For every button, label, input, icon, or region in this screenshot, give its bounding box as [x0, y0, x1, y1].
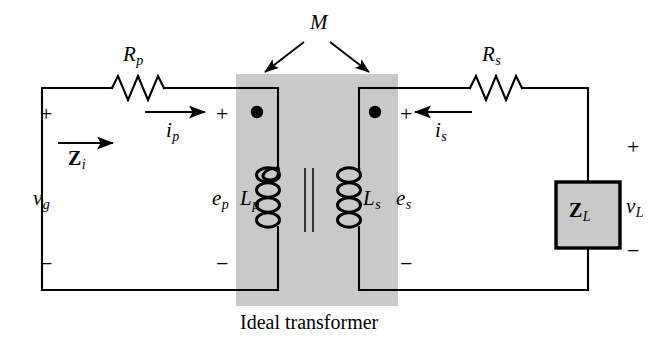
resistor-secondary-label: Rs	[482, 44, 501, 68]
secondary-minus-sign: −	[400, 253, 412, 275]
source-plus-sign: +	[40, 103, 52, 125]
circuit-figure: M Rp Rs ip is Zi vg ep Lp Ls es ZL	[0, 0, 658, 345]
secondary-plus-sign: +	[400, 103, 412, 125]
figure-caption: Ideal transformer	[240, 312, 378, 332]
resistor-zigzag-icon	[470, 76, 522, 100]
resistor-primary-label: Rp	[123, 44, 143, 68]
secondary-current-label: is	[435, 120, 447, 144]
circuit-schematic-svg	[0, 0, 658, 345]
load-minus-sign: −	[627, 240, 639, 262]
primary-minus-sign: −	[216, 253, 228, 275]
source-minus-sign: −	[40, 253, 52, 275]
primary-plus-sign: +	[216, 103, 228, 125]
primary-current-label: ip	[166, 120, 179, 144]
resistor-zigzag-icon	[112, 76, 164, 100]
inductor-primary-label: Lp	[240, 188, 259, 212]
secondary-emf-label: es	[396, 188, 411, 212]
primary-emf-label: ep	[212, 188, 229, 212]
mutual-inductance-label: M	[310, 12, 328, 33]
arrow-icon-mutual-left	[265, 42, 304, 72]
inductor-secondary-label: Ls	[363, 188, 381, 212]
load-impedance-label: ZL	[569, 200, 591, 224]
load-plus-sign: +	[627, 136, 639, 158]
dot-icon-primary	[251, 106, 263, 118]
dot-icon-secondary	[369, 106, 381, 118]
source-voltage-label: vg	[33, 188, 50, 212]
load-voltage-label: vL	[626, 196, 644, 220]
arrow-icon-mutual-right	[330, 42, 369, 72]
input-impedance-label: Zi	[68, 148, 86, 172]
